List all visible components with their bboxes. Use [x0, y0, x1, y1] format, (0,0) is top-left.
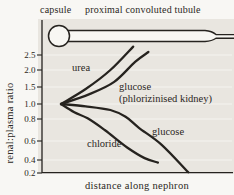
y-tick-label: 1.0	[24, 99, 36, 109]
curve-label-glucose_phlorizinised: glucose	[119, 81, 151, 92]
y-tick-label: 0.6	[24, 136, 36, 146]
y-tick-label: 1.5	[24, 82, 36, 92]
tubule-lumen	[66, 31, 234, 42]
proximal-tubule-label: proximal convoluted tubule	[85, 4, 201, 15]
y-axis-title: renal:plasma ratio	[4, 83, 15, 164]
y-tick-label: 0.4	[24, 155, 36, 165]
curve-label-urea: urea	[72, 62, 90, 73]
y-axis-tick-labels: 2.52.01.51.00.80.60.40.2	[24, 50, 36, 178]
curve-label-chloride: chloride	[87, 138, 122, 149]
y-tick-label: 0.8	[24, 114, 36, 124]
capsule-circle	[49, 26, 70, 47]
curve-label-glucose_phlorizinised: (phlorizinised kidney)	[119, 93, 213, 105]
y-tick-label: 2.5	[24, 50, 36, 60]
curve-label-glucose: glucose	[152, 126, 184, 137]
y-tick-label: 0.2	[24, 168, 35, 178]
figure-nephron-ratios: 2.52.01.51.00.80.60.40.2 ureaglucose(phl…	[0, 0, 234, 195]
y-tick-label: 2.0	[24, 65, 36, 75]
capsule-label: capsule	[40, 4, 72, 15]
x-axis-title: distance along nephron	[85, 180, 189, 191]
nephron-ratio-chart: 2.52.01.51.00.80.60.40.2 ureaglucose(phl…	[0, 0, 234, 195]
